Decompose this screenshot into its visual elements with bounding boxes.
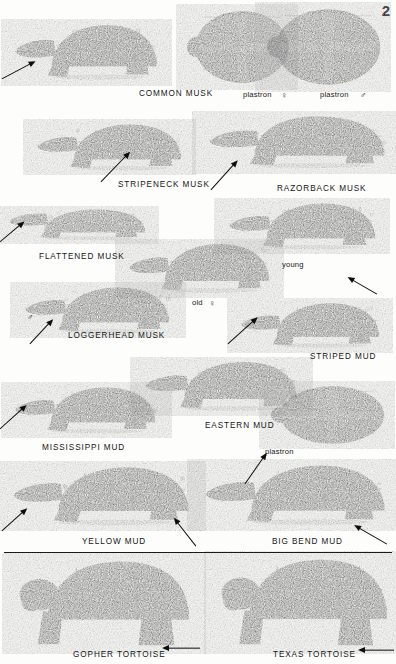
label-symbol-male-1: ♂	[360, 90, 366, 100]
label-big-bend-mud: BIG BEND MUD	[272, 537, 343, 546]
label-common-musk: COMMON MUSK	[139, 89, 213, 98]
label-symbol-female-1: ♀	[281, 90, 287, 100]
arrow-texas-foot	[358, 646, 394, 654]
label-stripeneck-musk: STRIPENECK MUSK	[118, 180, 210, 189]
specimen-eastern-mud-plastron	[272, 384, 388, 446]
specimen-yellow-mud-turtle	[12, 458, 192, 536]
specimen-striped-mud-turtle	[240, 296, 382, 356]
label-symbol-female-2: ♀	[209, 298, 215, 308]
field-guide-plate: 2 COMMON MUSKplastron♀plastron♂STRIPENEC…	[0, 0, 396, 664]
specimen-razorback-musk-turtle	[208, 112, 388, 182]
label-texas-tortoise: TEXAS TORTOISE	[273, 650, 356, 659]
specimen-gopher-tortoise	[16, 556, 196, 648]
specimen-mississippi-mud-turtle	[14, 380, 158, 442]
arrow-gopher-foot	[162, 644, 200, 652]
section-divider	[4, 552, 392, 553]
specimen-texas-tortoise	[218, 554, 394, 648]
label-flattened-musk: FLATTENED MUSK	[39, 252, 125, 261]
label-symbol-male-2: ♂	[27, 312, 33, 322]
label-young: young	[282, 260, 304, 269]
label-plastron-male-1: plastron	[320, 90, 349, 99]
label-gopher-tortoise: GOPHER TORTOISE	[73, 650, 166, 659]
label-mississippi-mud: MISSISSIPPI MUD	[42, 443, 125, 452]
label-loggerhead-musk: LOGGERHEAD MUSK	[68, 331, 165, 340]
label-old-female: old	[192, 298, 203, 307]
label-plastron-2: plastron	[265, 447, 294, 456]
arrow-young-shell	[346, 274, 379, 298]
specimen-flattened-musk-turtle	[8, 198, 148, 250]
label-plastron-female-1: plastron	[243, 90, 272, 99]
label-eastern-mud: EASTERN MUD	[205, 421, 275, 430]
label-razorback-musk: RAZORBACK MUSK	[277, 184, 366, 193]
specimen-common-musk-plastron-male	[268, 6, 384, 88]
specimen-common-musk-turtle	[14, 16, 160, 90]
label-yellow-mud: YELLOW MUD	[82, 537, 146, 546]
label-striped-mud: STRIPED MUD	[310, 352, 376, 361]
